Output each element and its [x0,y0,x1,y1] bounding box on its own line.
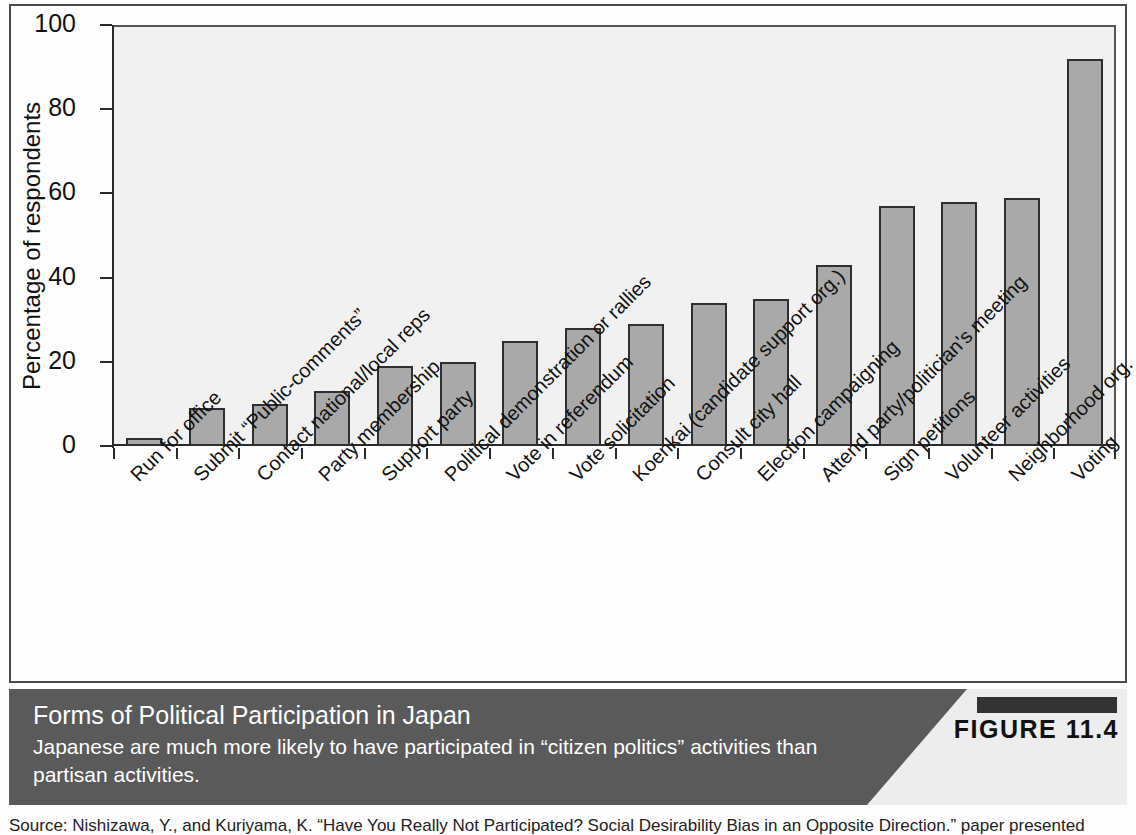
y-tick-mark [100,24,112,26]
y-tick-label: 100 [6,11,76,36]
y-tick-mark [100,192,112,194]
y-tick-label: 80 [6,95,76,120]
y-tick-label: 20 [6,348,76,373]
y-tick-mark [100,361,112,363]
y-tick-mark [100,108,112,110]
bar-chart: Percentage of respondents 020406080100 R… [0,0,1136,700]
figure-number-label: FIGURE 11.4 [954,715,1119,744]
badge-accent-bar [977,697,1117,713]
figure-caption-bar: Forms of Political Participation in Japa… [9,689,1127,805]
y-tick-mark [100,445,112,447]
y-tick-label: 60 [6,179,76,204]
caption-subtitle: Japanese are much more likely to have pa… [33,733,853,789]
source-note: Source: Nishizawa, Y., and Kuriyama, K. … [9,816,1134,835]
caption-title: Forms of Political Participation in Japa… [33,699,853,731]
y-tick-label: 40 [6,264,76,289]
caption-text-block: Forms of Political Participation in Japa… [33,699,853,789]
x-tick-mark [113,448,115,459]
y-tick-label: 0 [6,432,76,457]
y-tick-mark [100,277,112,279]
